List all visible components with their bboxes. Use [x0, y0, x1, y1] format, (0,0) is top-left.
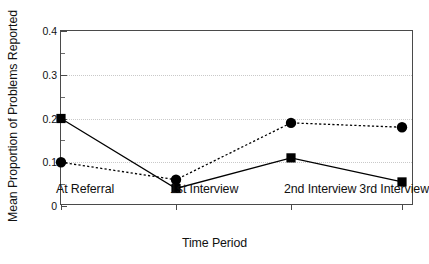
marker-circle [56, 157, 66, 167]
chart-figure: Mean Proportion of Problems Reported 00.… [0, 0, 429, 264]
marker-square [286, 153, 295, 162]
marker-square [56, 114, 65, 123]
y-axis-tick-label: 0 [51, 201, 57, 211]
x-axis-category-label: 2nd Interview [284, 182, 356, 196]
y-axis-tick-label: 0.3 [42, 70, 57, 80]
y-axis-tick-label: 0.4 [42, 26, 57, 36]
y-axis-title: Mean Proportion of Problems Reported [6, 9, 22, 223]
x-axis-category-label: 1st Interview [170, 182, 238, 196]
series-line [61, 119, 402, 189]
x-axis-category-label: At Referral [56, 182, 114, 196]
y-axis-tick-label: 0.2 [42, 114, 57, 124]
x-axis-title: Time Period [0, 236, 429, 250]
plot-area: 00.10.20.30.4 [60, 30, 413, 205]
x-axis-category-label: 3rd Interview [359, 182, 429, 196]
y-axis-tick-label: 0.1 [42, 157, 57, 167]
marker-circle [397, 122, 407, 132]
series-layer [61, 31, 414, 206]
marker-circle [286, 118, 296, 128]
